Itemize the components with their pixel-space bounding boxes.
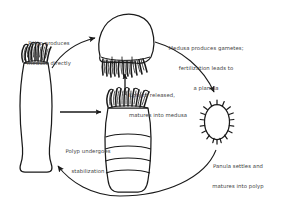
caption-line: fertilization leads to	[161, 65, 251, 72]
caption-line: matures into polyp	[200, 183, 276, 190]
caption-line: stabilization	[55, 168, 121, 175]
caption-line: Polyp undergoes	[55, 148, 121, 155]
caption-line: matures into medusa	[129, 112, 205, 119]
caption-line: medusa directly	[16, 60, 82, 67]
caption-line: Panula settles and	[200, 163, 276, 170]
caption-ephyra-released: Ephyra released, matures into medusa	[129, 79, 205, 132]
caption-planula-settles: Panula settles and matures into polyp	[200, 150, 276, 203]
caption-polyp-undergoes-stabilization: Polyp undergoes stabilization	[55, 135, 121, 188]
caption-line: Ephyra released,	[129, 92, 205, 99]
caption-line: Medusa produces gametes;	[161, 45, 251, 52]
caption-polyp-produces-medusa: Polyp produces medusa directly	[16, 27, 82, 80]
organism-planula	[200, 100, 234, 144]
life-cycle-diagram: Polyp produces medusa directly Medusa pr…	[0, 0, 283, 211]
caption-line: Polyp produces	[16, 40, 82, 47]
organism-medusa	[99, 14, 154, 77]
